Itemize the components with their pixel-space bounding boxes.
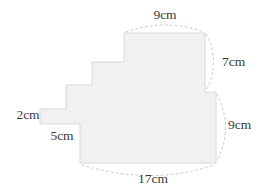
dimension-label-top-9cm: 9cm xyxy=(153,7,177,22)
dimension-label-right-7cm: 7cm xyxy=(222,54,246,69)
dimension-label-left-2cm: 2cm xyxy=(16,107,40,122)
figure-canvas: 9cm 7cm 9cm 17cm 2cm 5cm xyxy=(0,0,262,193)
leader-arc-right-7cm xyxy=(206,34,214,91)
leader-arc-top-9cm xyxy=(126,25,204,32)
dimension-label-bottom-5cm: 5cm xyxy=(50,128,74,143)
composite-shape-polygon xyxy=(40,33,216,163)
dimension-label-bottom-17cm: 17cm xyxy=(138,171,168,186)
leader-arc-right-9cm xyxy=(217,94,226,161)
geometry-figure: 9cm 7cm 9cm 17cm 2cm 5cm xyxy=(0,0,262,193)
dimension-label-right-9cm: 9cm xyxy=(228,117,252,132)
